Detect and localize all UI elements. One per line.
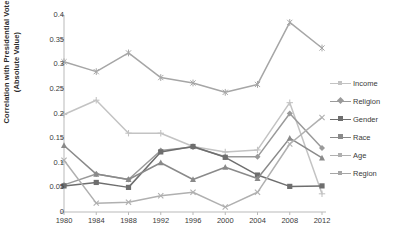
y-axis-title: Correlation with Presidential Vote (Abso… [2, 0, 22, 142]
x-tick-label: 1992 [144, 216, 178, 225]
series-region [61, 19, 324, 96]
data-point-marker [319, 115, 324, 120]
data-point-marker [126, 185, 131, 190]
data-point-marker [222, 164, 228, 170]
data-point-marker [158, 160, 164, 166]
legend-label: Race [351, 133, 371, 142]
legend-label: Income [351, 79, 378, 88]
y-tick-label: 0.1 [42, 159, 64, 167]
legend-swatch-icon [330, 133, 351, 142]
y-tick-label: 0.4 [42, 11, 64, 19]
legend-swatch-icon [330, 115, 351, 124]
data-point-marker [190, 144, 195, 149]
legend-label: Religion [351, 97, 380, 106]
data-point-marker [287, 135, 293, 141]
data-point-marker [126, 50, 131, 57]
data-point-marker [223, 155, 228, 160]
y-tick-label: 0.3 [42, 60, 64, 68]
y-axis-tick-labels: 00.050.10.150.20.250.30.350.4 [38, 0, 64, 243]
legend-swatch-icon [330, 97, 351, 106]
x-tick-label: 1988 [112, 216, 146, 225]
legend-swatch-icon [330, 169, 351, 178]
legend-swatch-icon [330, 151, 351, 160]
data-point-marker [319, 191, 325, 197]
data-point-marker [287, 184, 292, 189]
legend-item-income[interactable]: Income [330, 74, 396, 92]
y-tick-label: 0.25 [42, 85, 64, 93]
data-point-marker [319, 155, 325, 161]
y-tick-label: 0.15 [42, 134, 64, 142]
x-tick-label: 2004 [241, 216, 275, 225]
data-point-marker [319, 183, 324, 188]
data-point-marker [223, 204, 228, 209]
legend-label: Gender [351, 115, 378, 124]
chart-legend: IncomeReligionGenderRaceAgeRegion [330, 74, 396, 182]
y-tick-label: 0.05 [42, 183, 64, 191]
legend-label: Region [351, 169, 377, 178]
x-tick-label: 1980 [47, 216, 81, 225]
series-race [61, 135, 325, 182]
legend-item-region[interactable]: Region [330, 164, 396, 182]
y-tick-label: 0.35 [42, 36, 64, 44]
data-point-marker [94, 180, 99, 185]
legend-item-religion[interactable]: Religion [330, 92, 396, 110]
legend-item-race[interactable]: Race [330, 128, 396, 146]
legend-label: Age [351, 151, 366, 160]
y-tick-label: 0.2 [42, 110, 64, 118]
x-tick-label: 1984 [79, 216, 113, 225]
data-point-marker [287, 19, 292, 26]
y-tick-label: 0 [42, 208, 64, 216]
chart-container: Correlation with Presidential Vote (Abso… [0, 0, 397, 243]
series-age [61, 115, 324, 210]
series-line [64, 117, 322, 207]
x-tick-label: 1996 [176, 216, 210, 225]
legend-swatch-icon [330, 79, 351, 88]
x-tick-label: 2000 [208, 216, 242, 225]
data-point-marker [255, 190, 260, 195]
data-point-marker [319, 45, 324, 52]
legend-item-age[interactable]: Age [330, 146, 396, 164]
x-tick-label: 2012 [305, 216, 339, 225]
data-point-marker [158, 149, 163, 154]
data-point-marker [158, 130, 164, 136]
x-tick-label: 2008 [273, 216, 307, 225]
legend-item-gender[interactable]: Gender [330, 110, 396, 128]
data-point-marker [287, 141, 292, 146]
